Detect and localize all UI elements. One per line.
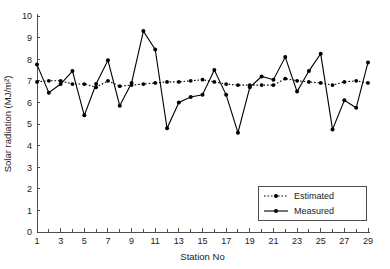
chart-figure: 012345678910 1357911131517192123252729 S… — [0, 0, 390, 269]
data-point-measured — [165, 126, 169, 130]
x-axis-ticks: 1357911131517192123252729 — [34, 228, 373, 246]
y-tick-label: 7 — [27, 76, 32, 86]
x-tick-label: 19 — [245, 236, 255, 246]
data-point-measured — [118, 104, 122, 108]
data-point-measured — [70, 69, 74, 73]
legend-label-measured: Measured — [294, 206, 334, 216]
data-point-measured — [354, 106, 358, 110]
data-point-measured — [94, 82, 98, 86]
legend-label-estimated: Estimated — [294, 191, 334, 201]
data-point-estimated — [224, 82, 228, 86]
data-point-estimated — [307, 80, 311, 84]
x-tick-label: 13 — [174, 236, 184, 246]
data-series-group — [35, 29, 370, 135]
data-point-estimated — [236, 83, 240, 87]
x-tick-label: 27 — [339, 236, 349, 246]
data-point-measured — [35, 63, 39, 67]
data-point-measured — [236, 131, 240, 135]
y-tick-label: 0 — [27, 227, 32, 237]
series-line-measured — [37, 31, 368, 133]
x-tick-label: 1 — [34, 236, 39, 246]
x-axis-title: Station No — [180, 251, 224, 262]
data-point-measured — [283, 55, 287, 59]
data-point-estimated — [354, 79, 358, 83]
data-point-estimated — [201, 78, 205, 82]
x-tick-label: 29 — [363, 236, 373, 246]
legend-marker-estimated — [274, 194, 278, 198]
x-tick-label: 3 — [58, 236, 63, 246]
data-point-measured — [295, 90, 299, 94]
data-point-estimated — [82, 82, 86, 86]
data-point-estimated — [319, 81, 323, 85]
data-point-estimated — [153, 81, 157, 85]
y-axis-title: Solar radiation (MJ/m²) — [2, 76, 13, 173]
data-point-estimated — [212, 80, 216, 84]
data-point-measured — [177, 100, 181, 104]
y-tick-label: 1 — [27, 206, 32, 216]
data-point-estimated — [331, 83, 335, 87]
data-point-measured — [82, 113, 86, 117]
data-point-estimated — [366, 81, 370, 85]
x-tick-label: 9 — [129, 236, 134, 246]
x-tick-label: 17 — [221, 236, 231, 246]
data-point-estimated — [47, 79, 51, 83]
data-point-measured — [59, 82, 63, 86]
y-tick-label: 6 — [27, 98, 32, 108]
data-point-measured — [106, 58, 110, 62]
data-point-estimated — [189, 79, 193, 83]
data-point-estimated — [106, 79, 110, 83]
data-point-measured — [189, 95, 193, 99]
y-tick-label: 4 — [27, 141, 32, 151]
x-tick-label: 5 — [82, 236, 87, 246]
data-point-estimated — [272, 83, 276, 87]
data-point-measured — [319, 52, 323, 56]
data-point-estimated — [295, 79, 299, 83]
x-tick-label: 7 — [105, 236, 110, 246]
data-point-measured — [260, 74, 264, 78]
x-tick-label: 23 — [292, 236, 302, 246]
data-point-measured — [130, 81, 134, 85]
data-point-measured — [248, 85, 252, 89]
data-point-estimated — [165, 80, 169, 84]
data-point-estimated — [118, 84, 122, 88]
data-point-measured — [141, 29, 145, 33]
x-tick-label: 11 — [151, 236, 160, 246]
data-point-measured — [342, 98, 346, 102]
data-point-estimated — [35, 80, 39, 84]
x-tick-label: 25 — [316, 236, 326, 246]
chart-legend: Estimated Measured — [258, 186, 366, 220]
data-point-measured — [224, 93, 228, 97]
data-point-measured — [153, 47, 157, 51]
y-tick-label: 10 — [22, 11, 32, 21]
data-point-measured — [201, 93, 205, 97]
y-tick-label: 3 — [27, 163, 32, 173]
legend-marker-measured — [274, 209, 278, 213]
data-point-estimated — [260, 83, 264, 87]
x-tick-label: 15 — [197, 236, 207, 246]
data-point-measured — [307, 69, 311, 73]
data-point-estimated — [342, 80, 346, 84]
solar-radiation-line-chart: 012345678910 1357911131517192123252729 S… — [0, 0, 390, 269]
data-point-estimated — [283, 77, 287, 81]
data-point-measured — [271, 78, 275, 82]
y-tick-label: 9 — [27, 33, 32, 43]
x-tick-label: 21 — [268, 236, 278, 246]
data-point-estimated — [141, 82, 145, 86]
y-tick-label: 2 — [27, 184, 32, 194]
data-point-measured — [212, 68, 216, 72]
y-tick-label: 8 — [27, 55, 32, 65]
data-point-estimated — [71, 82, 75, 86]
y-tick-label: 5 — [27, 119, 32, 129]
data-point-measured — [366, 60, 370, 64]
data-point-measured — [331, 127, 335, 131]
data-point-measured — [47, 91, 51, 95]
data-point-estimated — [177, 80, 181, 84]
